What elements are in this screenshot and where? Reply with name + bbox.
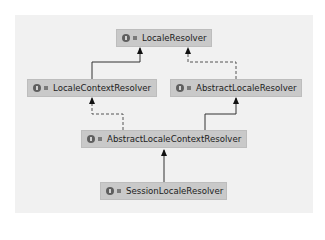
node-label: AbstractLocaleContextResolver: [107, 134, 241, 144]
node-abstract-locale-context-resolver[interactable]: AbstractLocaleContextResolver: [81, 130, 247, 148]
edge-abstractlocalecontextresolver-to-abstractlocaleresolver: [205, 98, 236, 130]
edge-abstractlocalecontextresolver-to-localecontextresolver: [92, 98, 123, 130]
arrow-head: [233, 97, 239, 104]
visibility-icon: [98, 137, 102, 141]
arrow-head: [89, 97, 95, 104]
node-abstract-locale-resolver[interactable]: AbstractLocaleResolver: [170, 79, 302, 97]
node-session-locale-resolver[interactable]: SessionLocaleResolver: [100, 182, 227, 200]
node-label: LocaleResolver: [142, 33, 206, 43]
node-label: LocaleContextResolver: [53, 83, 151, 93]
node-label: AbstractLocaleResolver: [196, 83, 297, 93]
visibility-icon: [44, 86, 48, 90]
node-locale-context-resolver[interactable]: LocaleContextResolver: [27, 79, 157, 97]
interface-icon: [33, 84, 41, 92]
arrow-head: [185, 47, 191, 54]
edge-abstractlocaleresolver-to-localeresolver: [188, 48, 236, 79]
abstract-class-icon: [176, 84, 184, 92]
node-locale-resolver[interactable]: LocaleResolver: [116, 29, 212, 47]
interface-icon: [122, 34, 130, 42]
visibility-icon: [187, 86, 191, 90]
visibility-icon: [133, 36, 137, 40]
node-label: SessionLocaleResolver: [126, 186, 223, 196]
arrow-head: [161, 149, 167, 156]
abstract-class-icon: [87, 135, 95, 143]
edge-localecontextresolver-to-localeresolver: [92, 48, 140, 79]
arrow-head: [137, 47, 143, 54]
visibility-icon: [117, 189, 121, 193]
class-icon: [106, 187, 114, 195]
